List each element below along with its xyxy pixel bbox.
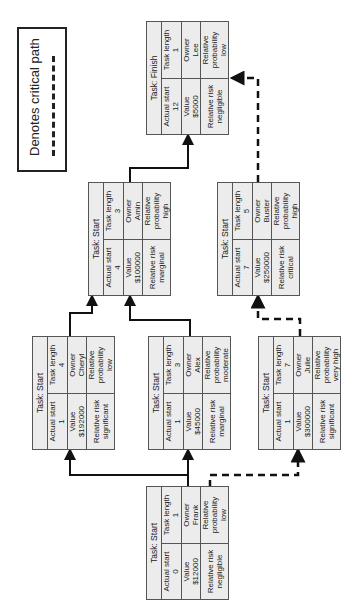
- value-amount: $100000: [133, 240, 142, 295]
- task-length-value: 7: [283, 337, 292, 393]
- actual-start-value: 1: [283, 394, 292, 449]
- risk-value: significant: [101, 394, 110, 449]
- task-length-value: 3: [113, 183, 122, 239]
- task-length-label: Task length: [233, 183, 242, 239]
- actual-start-label: Actual start: [48, 394, 57, 449]
- value-amount: $192000: [77, 394, 86, 449]
- actual-start-label: Actual start: [233, 240, 242, 295]
- link-amin-finish: [130, 135, 188, 182]
- task-node-frank: Task: Start Actual start0 Task length1 V…: [146, 486, 229, 600]
- owner-name: Amin: [133, 183, 142, 239]
- probability-label: Relative probability: [272, 183, 290, 239]
- task-length-label: Task length: [274, 337, 283, 393]
- task-length-label: Task length: [48, 337, 57, 393]
- risk-label: Relative risk: [206, 79, 215, 134]
- value-label: Value: [182, 79, 191, 134]
- actual-start-label: Actual start: [162, 79, 171, 134]
- owner-name: Frank: [191, 487, 200, 543]
- probability-value: low: [219, 22, 228, 78]
- legend-dashed-line: [52, 56, 55, 156]
- value-amount: $5000: [191, 79, 200, 134]
- task-length-label: Task length: [162, 22, 171, 78]
- actual-start-label: Actual start: [104, 240, 113, 295]
- actual-start-label: Actual start: [162, 544, 171, 599]
- task-node-alex: Task: Start Actual start1 Task length3 V…: [148, 336, 231, 450]
- link-cheryl-amin: [70, 296, 92, 336]
- probability-value: very high: [331, 337, 340, 393]
- owner-label: Owner: [68, 337, 77, 393]
- owner-name: Cheryl: [77, 337, 86, 393]
- owner-name: Lee: [191, 22, 200, 78]
- task-title: Task: Start: [147, 487, 162, 599]
- task-title: Task: Finish: [147, 22, 162, 134]
- legend-label: Denotes critical path: [27, 38, 42, 156]
- risk-label: Relative risk: [148, 240, 157, 295]
- risk-label: Relative risk: [318, 394, 327, 449]
- task-length-value: 3: [173, 337, 182, 393]
- link-frank-julie: [210, 450, 298, 487]
- task-title: Task: Start: [89, 183, 104, 295]
- legend: Denotes critical path: [17, 27, 67, 172]
- probability-label: Relative probability: [313, 337, 331, 393]
- probability-label: Relative probability: [87, 337, 105, 393]
- task-length-label: Task length: [164, 337, 173, 393]
- probability-label: Relative probability: [201, 22, 219, 78]
- value-amount: $250000: [262, 240, 271, 295]
- actual-start-value: 12: [171, 79, 180, 134]
- task-node-buster: Task: Start Actual start7 Task length5 V…: [217, 182, 300, 296]
- task-title: Task: Start: [149, 337, 164, 449]
- task-length-label: Task length: [104, 183, 113, 239]
- value-amount: $300000: [303, 394, 312, 449]
- link-alex-amin: [130, 296, 190, 336]
- risk-value: significant: [327, 394, 336, 449]
- probability-label: Relative probability: [143, 183, 161, 239]
- risk-label: Relative risk: [277, 240, 286, 295]
- probability-label: Relative probability: [203, 337, 221, 393]
- owner-name: Buster: [262, 183, 271, 239]
- value-label: Value: [68, 394, 77, 449]
- task-length-value: 1: [171, 487, 180, 543]
- network-diagram: Denotes critical path Task: Start Actual…: [0, 0, 356, 603]
- owner-label: Owner: [182, 22, 191, 78]
- value-label: Value: [184, 394, 193, 449]
- link-buster-finish: [232, 78, 258, 182]
- risk-value: negligible: [215, 544, 224, 599]
- value-label: Value: [182, 544, 191, 599]
- actual-start-value: 4: [113, 240, 122, 295]
- risk-value: negligible: [215, 79, 224, 134]
- probability-value: moderate: [221, 337, 230, 393]
- task-title: Task: Start: [218, 183, 233, 295]
- probability-value: low: [219, 487, 228, 543]
- probability-label: Relative probability: [201, 487, 219, 543]
- actual-start-value: 0: [171, 544, 180, 599]
- task-length-value: 1: [171, 22, 180, 78]
- probability-value: high: [161, 183, 170, 239]
- actual-start-value: 1: [57, 394, 66, 449]
- task-title: Task: Start: [259, 337, 274, 449]
- actual-start-label: Actual start: [164, 394, 173, 449]
- risk-value: marginal: [157, 240, 166, 295]
- risk-label: Relative risk: [208, 394, 217, 449]
- actual-start-value: 7: [242, 240, 251, 295]
- owner-label: Owner: [124, 183, 133, 239]
- probability-value: high: [290, 183, 299, 239]
- value-amount: $45000: [193, 394, 202, 449]
- actual-start-value: 1: [173, 394, 182, 449]
- task-length-label: Task length: [162, 487, 171, 543]
- task-title: Task: Start: [33, 337, 48, 449]
- owner-name: Alex: [193, 337, 202, 393]
- task-length-value: 4: [57, 337, 66, 393]
- risk-value: critical: [286, 240, 295, 295]
- task-length-value: 5: [242, 183, 251, 239]
- risk-label: Relative risk: [92, 394, 101, 449]
- value-label: Value: [294, 394, 303, 449]
- owner-label: Owner: [253, 183, 262, 239]
- owner-name: Julie: [303, 337, 312, 393]
- value-amount: $12000: [191, 544, 200, 599]
- task-node-julie: Task: Start Actual start1 Task length7 V…: [258, 336, 341, 450]
- task-node-cheryl: Task: Start Actual start1 Task length4 V…: [32, 336, 115, 450]
- owner-label: Owner: [182, 487, 191, 543]
- actual-start-label: Actual start: [274, 394, 283, 449]
- risk-label: Relative risk: [206, 544, 215, 599]
- probability-value: low: [105, 337, 114, 393]
